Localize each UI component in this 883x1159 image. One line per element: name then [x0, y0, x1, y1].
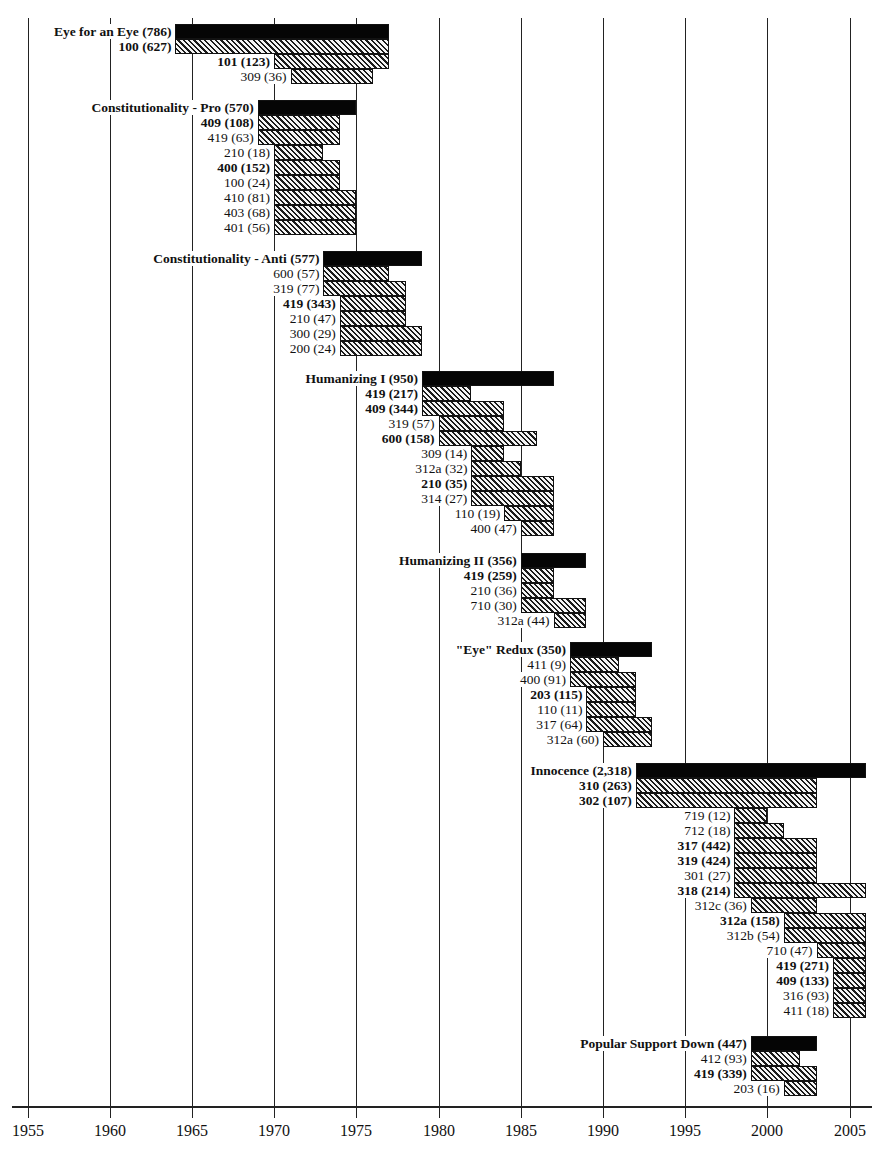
gridline-1990 [603, 18, 604, 1106]
item-bar [340, 326, 422, 341]
item-label: 310 (263) [577, 778, 634, 793]
item-bar [734, 883, 866, 898]
x-axis [12, 1106, 872, 1108]
item-label: 312a (44) [495, 613, 551, 628]
item-label: 100 (627) [117, 39, 174, 54]
item-label: 712 (18) [682, 823, 732, 838]
x-tick-label: 1995 [669, 1122, 701, 1140]
item-label: 312c (36) [693, 898, 749, 913]
item-label: 300 (29) [288, 326, 338, 341]
item-bar [274, 205, 356, 220]
group-label: Constitutionality - Pro (570) [90, 100, 256, 115]
item-bar [439, 431, 538, 446]
item-bar [422, 386, 471, 401]
group-total-bar [521, 553, 587, 568]
item-bar [504, 506, 553, 521]
item-label: 410 (81) [222, 190, 272, 205]
item-label: 710 (47) [764, 943, 814, 958]
item-label: 319 (77) [271, 281, 321, 296]
item-label: 210 (47) [288, 311, 338, 326]
item-bar [636, 793, 817, 808]
item-bar [521, 583, 554, 598]
item-bar [258, 130, 340, 145]
item-label: 419 (259) [462, 568, 519, 583]
item-label: 409 (344) [363, 401, 420, 416]
item-label: 210 (35) [419, 476, 469, 491]
item-label: 318 (214) [676, 883, 733, 898]
item-bar [734, 868, 816, 883]
item-label: 309 (14) [419, 446, 469, 461]
item-bar [833, 988, 866, 1003]
item-label: 317 (64) [534, 717, 584, 732]
item-label: 203 (16) [732, 1081, 782, 1096]
group-total-bar [570, 642, 652, 657]
item-bar [258, 115, 340, 130]
item-bar [751, 1051, 800, 1066]
item-label: 403 (68) [222, 205, 272, 220]
item-label: 419 (63) [206, 130, 256, 145]
item-bar [833, 1003, 866, 1018]
item-label: 411 (18) [781, 1003, 831, 1018]
gridline-1965 [192, 18, 193, 1106]
item-bar [833, 958, 866, 973]
x-tick-label: 2005 [834, 1122, 866, 1140]
item-bar [734, 853, 816, 868]
item-label: 719 (12) [682, 808, 732, 823]
item-label: 210 (36) [469, 583, 519, 598]
item-label: 710 (30) [469, 598, 519, 613]
item-label: 110 (11) [535, 702, 584, 717]
group-total-bar [258, 100, 357, 115]
item-label: 314 (27) [419, 491, 469, 506]
group-total-bar [175, 24, 389, 39]
timeline-chart: 1955196019651970197519801985199019952000… [0, 0, 883, 1159]
item-bar [175, 39, 389, 54]
gridline-1975 [356, 18, 357, 1106]
item-label: 110 (19) [453, 506, 503, 521]
item-label: 203 (115) [528, 687, 584, 702]
item-label: 316 (93) [781, 988, 831, 1003]
item-bar [274, 145, 323, 160]
group-total-bar [636, 763, 866, 778]
item-label: 412 (93) [699, 1051, 749, 1066]
item-bar [817, 943, 866, 958]
item-bar [323, 281, 405, 296]
item-bar [833, 973, 866, 988]
item-label: 312b (54) [725, 928, 782, 943]
group-total-bar [323, 251, 422, 266]
item-bar [784, 1081, 817, 1096]
group-label: Innocence (2,318) [529, 763, 634, 778]
item-label: 419 (217) [363, 386, 420, 401]
item-label: 210 (18) [222, 145, 272, 160]
item-bar [586, 702, 635, 717]
item-bar [603, 732, 652, 747]
group-label: Humanizing I (950) [304, 371, 421, 386]
x-tick-label: 1990 [587, 1122, 619, 1140]
item-label: 411 (9) [525, 657, 568, 672]
gridline-1955 [28, 18, 29, 1106]
x-tick-label: 1975 [340, 1122, 372, 1140]
group-label: Eye for an Eye (786) [52, 24, 174, 39]
item-bar [554, 613, 587, 628]
group-total-bar [751, 1036, 817, 1051]
item-bar [734, 808, 767, 823]
group-total-bar [422, 371, 554, 386]
item-label: 419 (343) [281, 296, 338, 311]
item-label: 400 (91) [518, 672, 568, 687]
item-bar [291, 69, 373, 84]
x-tick-label: 1965 [176, 1122, 208, 1140]
item-label: 301 (27) [682, 868, 732, 883]
item-label: 312a (158) [718, 913, 782, 928]
item-bar [471, 476, 553, 491]
item-label: 600 (57) [271, 266, 321, 281]
item-label: 312a (60) [545, 732, 601, 747]
gridline-1995 [685, 18, 686, 1106]
item-bar [323, 266, 389, 281]
item-bar [471, 446, 504, 461]
item-label: 309 (36) [238, 69, 288, 84]
item-bar [784, 928, 866, 943]
item-label: 312a (32) [413, 461, 469, 476]
item-bar [521, 598, 587, 613]
x-tick-label: 1970 [258, 1122, 290, 1140]
item-label: 400 (152) [215, 160, 272, 175]
item-bar [521, 521, 554, 536]
